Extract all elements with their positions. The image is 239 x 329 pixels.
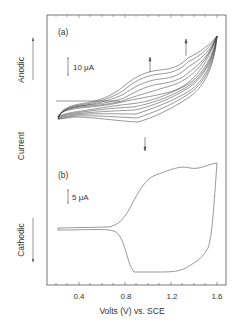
- anodic-label: Anodic: [16, 56, 26, 83]
- panel-b-label: (b): [58, 170, 69, 180]
- top-ticks: [56, 15, 217, 18]
- bottom-ticks: [56, 282, 217, 285]
- x-axis-label: Volts (V) vs. SCE: [99, 306, 165, 316]
- anodic-arrowhead-icon: [32, 37, 34, 41]
- scale-label-b: 5 μA: [72, 193, 89, 202]
- x-tick-1.6: 1.6: [211, 292, 223, 301]
- x-tick-1.2: 1.2: [166, 292, 178, 301]
- x-tick-0.8: 0.8: [120, 292, 132, 301]
- cathodic-label: Cathodic: [16, 222, 26, 256]
- panel-a-label: (a): [58, 27, 69, 37]
- scale-label-a: 10 μA: [73, 63, 95, 72]
- current-label: Current: [16, 131, 26, 160]
- panel-b-curve: [58, 163, 217, 272]
- voltammogram-figure: 0.4 0.8 1.2 1.6 Volts (V) vs. SCE Anodic…: [0, 0, 239, 329]
- panel-a-curves: [56, 36, 217, 122]
- x-tick-0.4: 0.4: [73, 292, 85, 301]
- cathodic-arrowhead-icon: [32, 259, 34, 263]
